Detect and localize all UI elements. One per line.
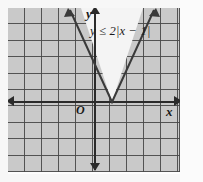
page-margin-top [0,0,203,8]
page-margin-left [0,0,8,182]
inequality-label: y ≤ 2|x − 1| [90,24,151,39]
page-margin-bottom [0,174,203,182]
coordinate-plane: y x O y ≤ 2|x − 1| [8,8,180,172]
y-axis-label: y [86,8,92,20]
graph-figure: y x O y ≤ 2|x − 1| [0,0,203,182]
page-margin-right [180,0,203,182]
origin-label: O [76,104,85,116]
x-axis-label: x [166,105,173,118]
